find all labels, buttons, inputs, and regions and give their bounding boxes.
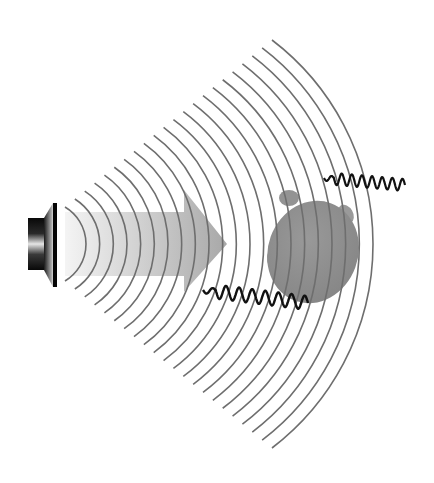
turtle-flipper — [279, 190, 299, 206]
speaker-icon — [28, 203, 57, 287]
turtle-body — [253, 188, 373, 317]
sound-diagram — [0, 0, 434, 483]
turtle-silhouette — [253, 188, 373, 317]
